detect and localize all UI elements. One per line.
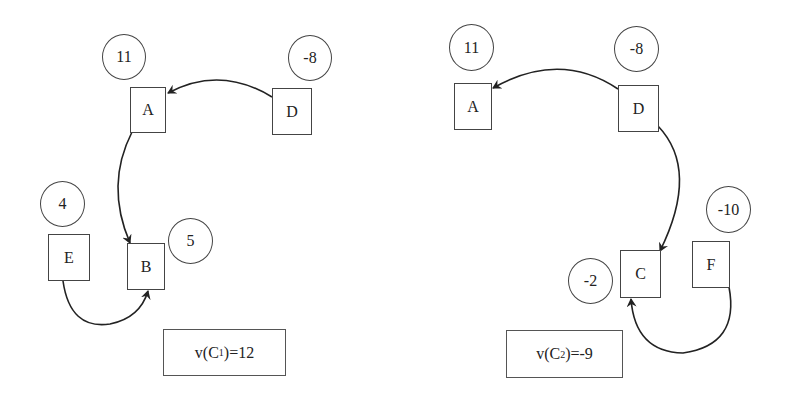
value-prefix: v(C (195, 344, 219, 362)
weight-circle-f: -10 (706, 186, 751, 233)
node-d: D (618, 85, 659, 132)
node-b: B (127, 243, 165, 290)
edge-d-to-a-right (493, 69, 618, 89)
node-d: D (272, 88, 312, 135)
node-e: E (48, 234, 90, 281)
weight-circle-c: -2 (568, 258, 613, 304)
edge-a-to-b-left (118, 132, 132, 243)
value-prefix: v(C (536, 345, 560, 363)
node-a: A (454, 83, 492, 130)
node-a: A (130, 87, 166, 133)
edge-d-to-a-left (168, 80, 272, 97)
weight-circle-d: -8 (614, 26, 659, 72)
node-f: F (692, 241, 730, 288)
weight-circle-e: 4 (40, 181, 85, 227)
edge-d-to-c-right (658, 126, 680, 251)
coalition-value-c2: v(C2)=-9 (506, 330, 623, 378)
value-suffix: )=-9 (565, 345, 593, 363)
coalition-value-c1: v(C1)=12 (163, 329, 286, 376)
weight-circle-a: 11 (102, 34, 146, 80)
node-c: C (620, 250, 661, 298)
weight-circle-b: 5 (168, 218, 213, 264)
value-suffix: )=12 (224, 344, 254, 362)
weight-circle-d: -8 (288, 35, 332, 81)
weight-circle-a: 11 (449, 24, 494, 71)
